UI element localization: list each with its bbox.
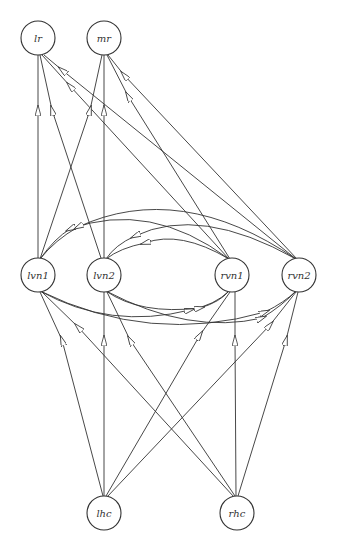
node-lhc: lhc xyxy=(87,496,121,530)
edge-lvn2-lr xyxy=(40,55,101,258)
node-lvn1: lvn1 xyxy=(21,258,55,292)
node-label: mr xyxy=(97,33,112,44)
node-rvn2: rvn2 xyxy=(282,258,316,292)
node-label: rvn1 xyxy=(220,270,243,281)
edge-rvn1-mr xyxy=(107,55,230,259)
network-diagram: lr mr lvn1 lvn2 rvn1 rvn2 lhc rhc xyxy=(0,0,337,550)
edge-rhc-rvn2 xyxy=(238,292,298,496)
node-label: lvn1 xyxy=(27,270,49,281)
figure-caption xyxy=(14,539,334,550)
edge-rvn2-lr xyxy=(44,55,296,259)
edges-from-bottom xyxy=(40,292,298,497)
node-lr: lr xyxy=(21,21,55,55)
edges-to-top xyxy=(38,55,297,259)
node-label: lr xyxy=(34,33,43,44)
arcs-bottom xyxy=(40,291,296,325)
node-label: rvn2 xyxy=(287,270,310,281)
node-rvn1: rvn1 xyxy=(215,258,249,292)
edge-lhc-rvn2 xyxy=(107,292,296,497)
edge-rhc-lvn1 xyxy=(42,292,234,497)
node-rhc: rhc xyxy=(220,496,254,530)
node-label: lhc xyxy=(96,508,112,519)
edge-lhc-lvn1 xyxy=(40,292,103,496)
node-label: rhc xyxy=(229,508,246,519)
edge-rvn2-mr xyxy=(108,55,297,259)
node-lvn2: lvn2 xyxy=(87,258,121,292)
node-label: lvn2 xyxy=(93,270,115,281)
node-mr: mr xyxy=(87,21,121,55)
